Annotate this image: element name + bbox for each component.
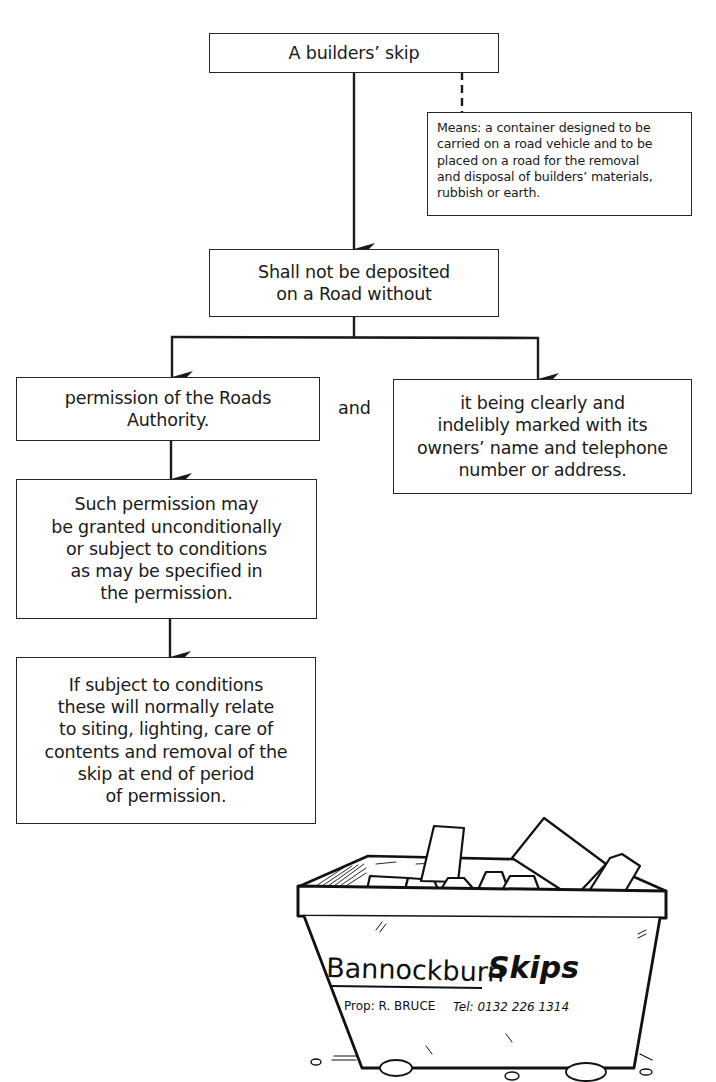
rule-box: Shall not be deposited on a Road without bbox=[209, 249, 499, 317]
skip-company-name: Bannockburn bbox=[326, 952, 505, 988]
conjunction-and: and bbox=[338, 398, 371, 418]
skip-company-name-skips: Skips bbox=[488, 950, 579, 985]
definition-text: Means: a container designed to be carrie… bbox=[437, 120, 653, 202]
condition-right-text: it being clearly and indelibly marked wi… bbox=[417, 392, 668, 481]
condition-right-box: it being clearly and indelibly marked wi… bbox=[393, 379, 692, 494]
skip-telephone: Tel: 0132 226 1314 bbox=[453, 1000, 569, 1014]
title-text: A builders’ skip bbox=[289, 42, 420, 64]
skip-proprietor: Prop: R. BRUCE bbox=[344, 999, 435, 1013]
condition-left-text: permission of the Roads Authority. bbox=[65, 387, 271, 431]
condition-left-box: permission of the Roads Authority. bbox=[16, 377, 320, 441]
rubble-tall-slab bbox=[421, 826, 464, 882]
conditions-box: If subject to conditions these will norm… bbox=[16, 657, 316, 824]
rule-text: Shall not be deposited on a Road without bbox=[258, 261, 450, 305]
permission-text: Such permission may be granted unconditi… bbox=[51, 493, 282, 604]
title-box: A builders’ skip bbox=[209, 33, 499, 73]
skip-illustration: Bannockburn Skips Prop: R. BRUCE Tel: 01… bbox=[286, 806, 706, 1082]
permission-box: Such permission may be granted unconditi… bbox=[16, 479, 317, 619]
branch-horizontal bbox=[171, 337, 539, 338]
conditions-text: If subject to conditions these will norm… bbox=[45, 674, 288, 807]
definition-box: Means: a container designed to be carrie… bbox=[427, 112, 692, 216]
